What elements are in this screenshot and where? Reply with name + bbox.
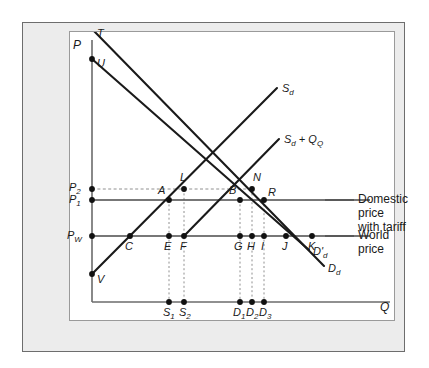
curve-label-SdQ-plus: + Q [296, 133, 317, 145]
point-label-U: U [97, 57, 105, 69]
curve-label-DdPrime-text: D [313, 245, 321, 257]
marker-dots [89, 32, 315, 305]
point-label-G: G [234, 240, 243, 252]
price-label-PW: PW [67, 229, 82, 244]
point-label-R: R [268, 186, 276, 198]
curve-label-Dd: Dd [328, 262, 340, 277]
dot-S1-axis [166, 299, 172, 305]
qty-label-S1: S1 [163, 306, 175, 321]
dot-P1-axis [89, 197, 95, 203]
qty-label-S1-sub: 1 [170, 312, 174, 321]
dot-E [166, 233, 172, 239]
dot-R [261, 197, 267, 203]
dot-A [166, 197, 172, 203]
qty-label-S2-sub: 2 [186, 312, 190, 321]
qty-label-D3: D3 [259, 306, 271, 321]
point-label-N: N [253, 171, 261, 183]
point-label-B: B [229, 184, 236, 196]
price-label-PW-sub: W [74, 235, 82, 244]
annotation-leaders [325, 200, 354, 236]
plot-panel: P Q P2 P1 PW S1 S2 D1 D2 D3 T U V L A B … [69, 31, 395, 321]
dot-D2-axis [249, 299, 255, 305]
qty-label-S2: S2 [179, 306, 191, 321]
dot-B [237, 197, 243, 203]
annotation-domestic-line1: Domestic price [358, 192, 408, 220]
dot-S2-axis [181, 299, 187, 305]
qty-label-D1: D1 [233, 306, 245, 321]
dot-P2-axis [89, 186, 95, 192]
point-label-E: E [164, 240, 171, 252]
point-label-V: V [97, 273, 104, 285]
economics-tariff-quota-diagram [70, 32, 396, 322]
dot-H [249, 233, 255, 239]
dot-PW-axis [89, 233, 95, 239]
annotation-world-price: World price [358, 228, 394, 256]
dot-F [181, 233, 187, 239]
dot-G [237, 233, 243, 239]
curve-label-Sd-plus-quota: Sd + QQ [284, 133, 323, 148]
qty-label-D2: D2 [246, 306, 258, 321]
price-label-P1: P1 [69, 193, 81, 208]
point-label-L: L [180, 171, 186, 183]
y-axis-label: P [73, 38, 81, 52]
qty-label-D1-text: D [233, 306, 241, 318]
point-label-T: T [97, 27, 104, 39]
dot-C [127, 233, 133, 239]
dot-J [283, 233, 289, 239]
dot-K [309, 233, 315, 239]
point-label-H: H [247, 240, 255, 252]
qty-label-D2-sub: 2 [254, 312, 258, 321]
curve-label-Sd: Sd [282, 82, 294, 97]
curve-Dd [92, 32, 324, 266]
qty-label-D3-text: D [259, 306, 267, 318]
price-label-P1-sub: 1 [76, 199, 80, 208]
point-label-J: J [282, 240, 288, 252]
dot-L [181, 186, 187, 192]
curve-label-Dd-sub: d [336, 268, 340, 277]
qty-label-D1-sub: 1 [241, 312, 245, 321]
axes-group [92, 40, 390, 302]
dot-U [89, 56, 95, 62]
curve-label-Dd-text: D [328, 262, 336, 274]
curve-label-Dd-prime: D'd [313, 245, 328, 260]
dot-N [249, 186, 255, 192]
point-label-F: F [180, 240, 187, 252]
curve-label-Sd-sub: d [289, 88, 293, 97]
curve-label-DdPrime-sub: d [323, 251, 327, 260]
point-label-I: I [261, 240, 264, 252]
dot-V [89, 271, 95, 277]
dot-D1-axis [237, 299, 243, 305]
qty-label-D3-sub: 3 [267, 312, 271, 321]
point-label-A: A [158, 184, 165, 196]
curve-label-SdQ-sub2: Q [317, 139, 323, 148]
dot-I [261, 233, 267, 239]
figure-frame: P Q P2 P1 PW S1 S2 D1 D2 D3 T U V L A B … [22, 22, 405, 352]
qty-label-D2-text: D [246, 306, 254, 318]
x-axis-label: Q [380, 300, 389, 314]
point-label-C: C [125, 240, 133, 252]
dot-D3-axis [261, 299, 267, 305]
